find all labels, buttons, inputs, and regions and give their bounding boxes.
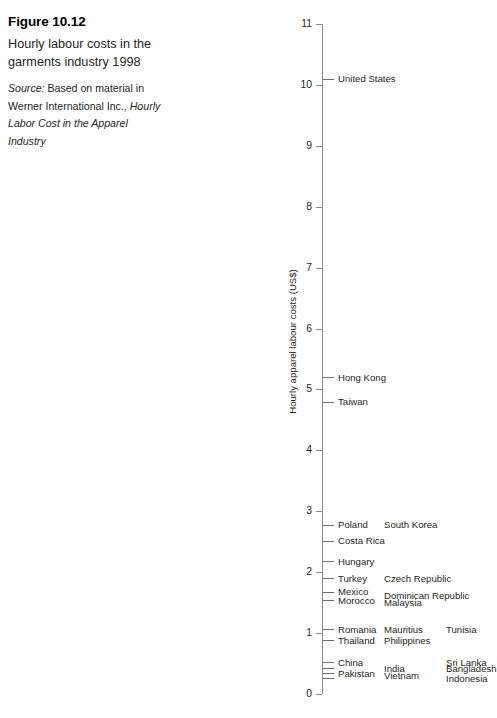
figure-number: Figure 10.12 xyxy=(8,14,168,30)
data-tick-mark xyxy=(323,668,334,669)
data-tick-mark xyxy=(323,600,334,601)
figure-title: Hourly labour costs in the garments indu… xyxy=(8,36,168,71)
data-point-label: Vietnam xyxy=(384,671,419,681)
data-point-label: Philippines xyxy=(384,636,430,646)
data-point-label: Indonesia xyxy=(446,674,488,684)
y-axis-tick xyxy=(316,633,322,634)
data-tick-mark xyxy=(323,662,334,663)
data-tick-mark xyxy=(323,561,334,562)
data-point-label: Hungary xyxy=(338,557,374,567)
y-axis-line xyxy=(322,24,323,694)
data-point-label: Thailand xyxy=(338,636,375,646)
y-axis-tick xyxy=(316,146,322,147)
data-tick-mark xyxy=(323,377,334,378)
chart-plot-area: Hourly apparel labour costs (US$) 012345… xyxy=(270,0,476,718)
y-axis-tick-label: 6 xyxy=(286,324,312,334)
y-axis-tick-label: 4 xyxy=(286,445,312,455)
y-axis-tick-label: 1 xyxy=(286,628,312,638)
y-axis-tick xyxy=(316,207,322,208)
y-axis-tick-label: 5 xyxy=(286,384,312,394)
y-axis-tick-label: 7 xyxy=(286,263,312,273)
y-axis-tick xyxy=(316,329,322,330)
figure-source: Source: Based on material in Werner Inte… xyxy=(8,80,168,150)
data-point-label: Romania xyxy=(338,625,376,635)
data-point-label: Malaysia xyxy=(384,598,422,608)
data-tick-mark xyxy=(323,79,334,80)
y-axis-tick xyxy=(316,694,322,695)
data-tick-mark xyxy=(323,592,334,593)
y-axis-title: Hourly apparel labour costs (US$) xyxy=(287,254,298,430)
y-axis-tick xyxy=(316,24,322,25)
y-axis-tick xyxy=(316,268,322,269)
data-point-label: United States xyxy=(338,74,396,84)
y-axis-tick-label: 8 xyxy=(286,202,312,212)
source-label: Source: xyxy=(8,82,45,94)
data-tick-mark xyxy=(323,673,334,674)
y-axis-tick-label: 0 xyxy=(286,689,312,699)
data-point-label: Costa Rica xyxy=(338,536,385,546)
data-point-label: Pakistan xyxy=(338,669,375,679)
y-axis-tick-label: 3 xyxy=(286,506,312,516)
data-tick-mark xyxy=(323,629,334,630)
data-point-label: South Korea xyxy=(384,520,437,530)
data-point-label: Taiwan xyxy=(338,397,368,407)
data-tick-mark xyxy=(323,402,334,403)
data-tick-mark xyxy=(323,678,334,679)
data-point-label: Mauritius xyxy=(384,625,423,635)
y-axis-tick-label: 11 xyxy=(286,19,312,29)
data-tick-mark xyxy=(323,640,334,641)
data-point-label: Czech Republic xyxy=(384,574,451,584)
data-tick-mark xyxy=(323,578,334,579)
data-point-label: Turkey xyxy=(338,574,367,584)
y-axis-tick-label: 9 xyxy=(286,141,312,151)
y-axis-tick-label: 2 xyxy=(286,567,312,577)
y-axis-tick xyxy=(316,389,322,390)
data-tick-mark xyxy=(323,525,334,526)
data-point-label: China xyxy=(338,658,363,668)
y-axis-tick-label: 10 xyxy=(286,80,312,90)
figure-caption-block: Figure 10.12 Hourly labour costs in the … xyxy=(8,14,168,150)
data-point-label: Poland xyxy=(338,520,368,530)
data-point-label: Hong Kong xyxy=(338,373,386,383)
data-point-label: Morocco xyxy=(338,596,375,606)
y-axis-tick xyxy=(316,85,322,86)
data-tick-mark xyxy=(323,541,334,542)
y-axis-tick xyxy=(316,450,322,451)
y-axis-tick xyxy=(316,511,322,512)
data-point-label: Tunisia xyxy=(446,625,477,635)
y-axis-tick xyxy=(316,572,322,573)
